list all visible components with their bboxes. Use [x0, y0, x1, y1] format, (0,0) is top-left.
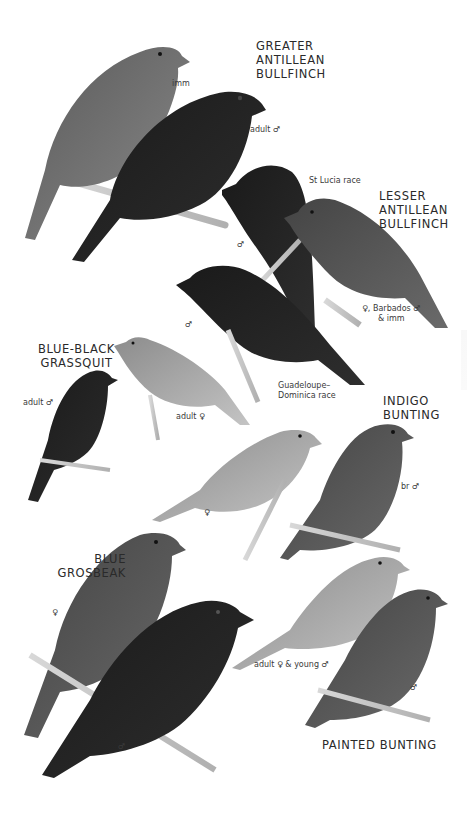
bird-indigo-bunting-female — [152, 430, 322, 522]
caption-pb-male: ♂ — [410, 683, 417, 693]
caption-gab-imm: imm — [172, 79, 190, 89]
caption-bbg-adult-male: adult ♂ — [23, 398, 53, 408]
species-name-lesser-antillean-bullfinch: LESSER ANTILLEAN BULLFINCH — [379, 189, 449, 231]
caption-lab-female-barbados: ♀, Barbados ♂ & imm — [362, 304, 420, 324]
caption-lab-male: ♂ — [237, 240, 244, 250]
bird-blue-black-grassquit-adult-male — [28, 370, 118, 502]
caption-ib-breeding-male: br ♂ — [401, 482, 419, 492]
caption-lab-male-2: ♂ — [185, 320, 192, 330]
page-show-through — [461, 330, 467, 390]
species-name-blue-black-grassquit: BLUE-BLACK GRASSQUIT — [38, 342, 115, 370]
caption-bbg-adult-female: adult ♀ — [176, 412, 205, 422]
caption-ib-female: ♀ — [204, 508, 210, 518]
species-name-blue-grosbeak: BLUE GROSBEAK — [36, 552, 126, 580]
caption-bg-male: ♂ — [118, 742, 125, 752]
caption-lab-guadeloupe-dominica: Guadeloupe– Dominica race — [278, 381, 336, 401]
caption-pb-female-young: adult ♀ & young ♂ — [254, 660, 329, 670]
branch — [325, 300, 360, 325]
caption-gab-adult-male: adult ♂ — [250, 125, 280, 135]
bird-lesser-antillean-bullfinch-guadeloupe-dominica — [176, 266, 365, 385]
species-name-painted-bunting: PAINTED BUNTING — [322, 738, 437, 752]
branch — [150, 395, 158, 440]
species-name-greater-antillean-bullfinch: GREATER ANTILLEAN BULLFINCH — [256, 39, 326, 81]
caption-lab-st-lucia: St Lucia race — [309, 176, 361, 186]
field-guide-plate: GREATER ANTILLEAN BULLFINCH LESSER ANTIL… — [0, 0, 471, 819]
caption-bg-female: ♀ — [52, 608, 58, 618]
species-name-indigo-bunting: INDIGO BUNTING — [383, 394, 440, 422]
